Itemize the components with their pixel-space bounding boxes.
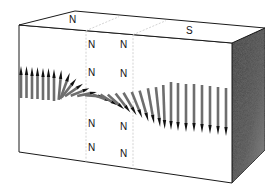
box-right-face: [232, 28, 265, 183]
magnetization-arrow: [200, 85, 203, 133]
pole-label-south-top: S: [186, 25, 193, 36]
pole-label-north: N: [88, 142, 95, 153]
magnetization-arrow: [208, 86, 211, 134]
pole-label-north: N: [88, 118, 95, 129]
pole-label-north: N: [88, 67, 95, 78]
pole-label-north-top: N: [69, 14, 76, 25]
domain-wall-diagram: N S NNNNNNNN: [0, 0, 279, 194]
magnetization-arrow: [176, 83, 179, 131]
pole-label-north: N: [120, 68, 127, 79]
magnetization-arrow: [192, 84, 195, 132]
pole-label-north: N: [88, 39, 95, 50]
pole-label-north: N: [120, 39, 127, 50]
magnetization-arrow: [169, 82, 172, 130]
magnetization-arrow: [184, 84, 187, 132]
magnetization-arrow: [216, 87, 219, 135]
magnetization-arrow: [224, 88, 227, 136]
pole-label-north: N: [120, 121, 127, 132]
pole-label-north: N: [120, 148, 127, 159]
